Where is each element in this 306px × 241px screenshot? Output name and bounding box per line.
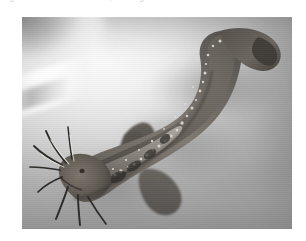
barbel-7	[88, 197, 106, 224]
caption-strip: Fig. 1. — Clarias batrachus, walking cat…	[0, 0, 306, 7]
barbel-3	[30, 167, 60, 170]
barbel-4	[38, 177, 62, 192]
figure-caption-text: Fig. 1. — Clarias batrachus, walking cat…	[2, 0, 173, 2]
ventral-fin-shape	[139, 169, 182, 216]
photograph-figure	[22, 17, 292, 229]
fish-eye	[79, 169, 84, 173]
barbel-5	[56, 187, 68, 219]
fish-svg	[22, 17, 292, 229]
photo-frame	[22, 17, 292, 229]
fish-illustration	[22, 17, 292, 229]
barbel-2	[34, 146, 62, 165]
